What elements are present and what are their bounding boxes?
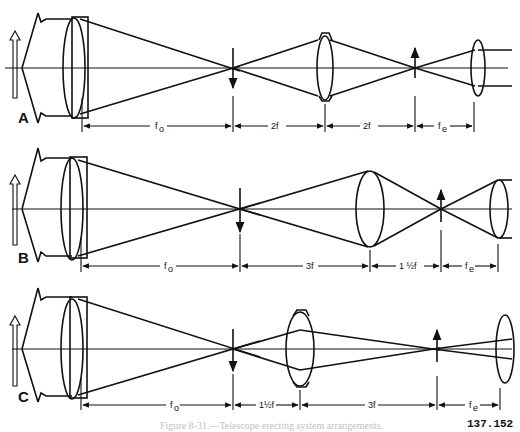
- panel-letter: A: [18, 109, 29, 126]
- svg-text:e: e: [473, 403, 478, 413]
- panel-letter: B: [18, 249, 29, 266]
- dimension-label: 2f: [363, 121, 371, 131]
- objective-mount: [70, 157, 87, 258]
- panel-letter: C: [18, 388, 29, 405]
- dimension-label: f: [469, 400, 472, 410]
- dimension-label: f: [170, 400, 173, 410]
- dimension-label: f: [155, 121, 158, 131]
- dimension-label: 2f: [271, 121, 279, 131]
- object-arrow-icon: [10, 31, 20, 98]
- telescope-diagram: A f o 2f 2f f e: [0, 0, 520, 432]
- panel-b: B f o 3f 1 ½f f e: [10, 148, 512, 274]
- dimension-label: 1 ½f: [399, 261, 417, 271]
- figure-caption: Figure 8-31.—Telescope erecting system a…: [160, 420, 383, 431]
- svg-text:o: o: [159, 124, 164, 134]
- svg-text:e: e: [442, 124, 447, 134]
- dimension-label: f: [465, 261, 468, 271]
- dimension-label: 1½f: [259, 400, 275, 410]
- incoming-ray-top: [38, 13, 72, 22]
- dimension-label: f: [438, 121, 441, 131]
- dimension-label: 3f: [306, 261, 314, 271]
- incoming-ray-bottom: [38, 113, 72, 123]
- svg-text:e: e: [469, 264, 474, 274]
- erector-lens: [317, 33, 333, 101]
- svg-text:o: o: [174, 403, 179, 413]
- panel-c: C f o 1½f 3f f e: [10, 288, 514, 413]
- dimension-label: f: [164, 261, 167, 271]
- dimension-label: 3f: [368, 400, 376, 410]
- objective-mount: [70, 297, 87, 398]
- object-arrow-icon: [10, 175, 20, 245]
- object-arrow-icon: [10, 316, 20, 386]
- figure-number: 137.152: [467, 418, 513, 430]
- panel-a: A f o 2f 2f f e: [5, 13, 512, 134]
- svg-text:o: o: [168, 264, 173, 274]
